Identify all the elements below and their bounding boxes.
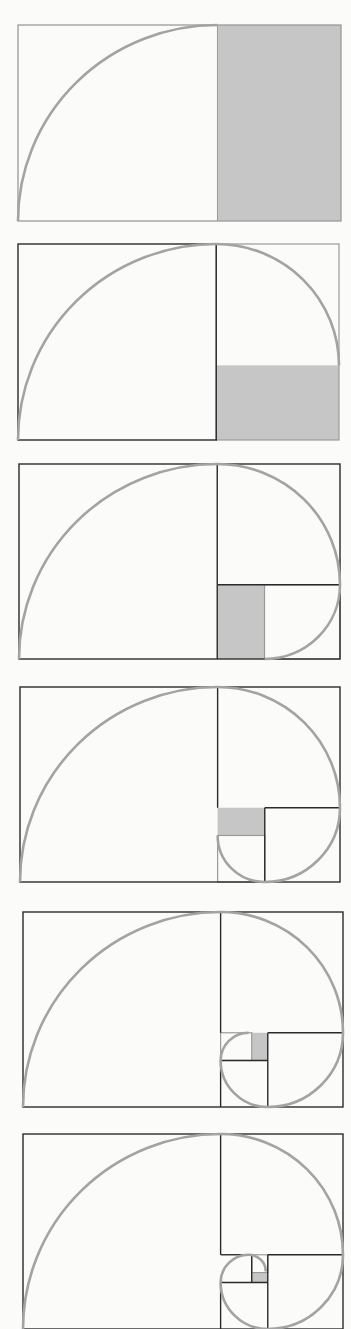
spiral-arc [20,687,340,882]
shaded-remainder [252,1033,268,1061]
shaded-remainder [216,365,339,440]
outer-rectangle [23,912,343,1107]
outer-rectangle [23,1134,343,1329]
outer-rectangle [20,687,340,882]
golden-rectangle-step-6: Step 6: sixth square added; remaining re… [23,1134,343,1329]
spiral-arc [18,25,217,221]
first-square [18,244,216,440]
golden-rectangle-step-1: Step 1: golden rectangle with first squa… [18,25,341,221]
shaded-remainder [217,25,341,221]
outer-rectangle [19,464,340,659]
shaded-remainder [252,1273,268,1283]
shaded-remainder [218,808,265,836]
spiral-arc [19,464,340,659]
golden-rectangle-step-2: Step 2: second square added; remaining r… [18,244,339,440]
spiral-arc [23,1134,343,1329]
golden-rectangle-step-4: Step 4: fourth square added; remaining r… [20,687,340,882]
spiral-arc [23,912,343,1107]
golden-rectangle-step-5: Step 5: fifth square added; remaining re… [23,912,343,1107]
shaded-remainder [217,585,264,659]
golden-rectangle-step-3: Step 3: third square added; remaining re… [19,464,340,659]
